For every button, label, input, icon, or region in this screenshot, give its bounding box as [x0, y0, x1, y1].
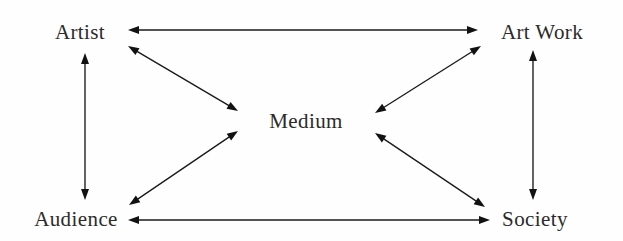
arrowhead-artwork-society-end [529, 189, 537, 200]
arrowhead-artist-artwork-end [467, 26, 478, 34]
node-label-artist: Artist [55, 20, 105, 44]
nodes-group: ArtistArt WorkMediumAudienceSociety [34, 20, 583, 231]
arrowhead-artist-audience-end [81, 189, 89, 200]
edge-medium-society [380, 136, 480, 203]
arrowhead-artist-artwork-start [128, 26, 139, 34]
node-label-artwork: Art Work [501, 20, 583, 44]
node-label-audience: Audience [34, 207, 118, 231]
node-label-society: Society [502, 207, 568, 231]
arrowhead-audience-medium-start [129, 196, 140, 205]
arrowhead-artwork-society-start [529, 50, 537, 61]
arrowhead-audience-medium-end [227, 131, 238, 140]
arrowhead-medium-artwork-start [375, 104, 386, 113]
arrowhead-artist-audience-start [81, 53, 89, 64]
diagram-canvas: ArtistArt WorkMediumAudienceSociety [0, 0, 623, 241]
edge-artist-medium [133, 49, 233, 108]
arrowhead-audience-society-start [128, 216, 139, 224]
edge-medium-artwork [380, 49, 476, 110]
arrowhead-medium-society-end [474, 198, 485, 207]
relationship-diagram: ArtistArt WorkMediumAudienceSociety [0, 0, 623, 241]
arrowhead-artist-medium-end [226, 102, 238, 111]
arrowhead-medium-society-start [375, 133, 386, 142]
edge-audience-medium [134, 134, 233, 201]
arrowhead-artist-medium-start [128, 46, 140, 55]
arrowhead-medium-artwork-end [470, 46, 481, 55]
node-label-medium: Medium [269, 109, 343, 133]
arrowhead-audience-society-end [479, 216, 490, 224]
